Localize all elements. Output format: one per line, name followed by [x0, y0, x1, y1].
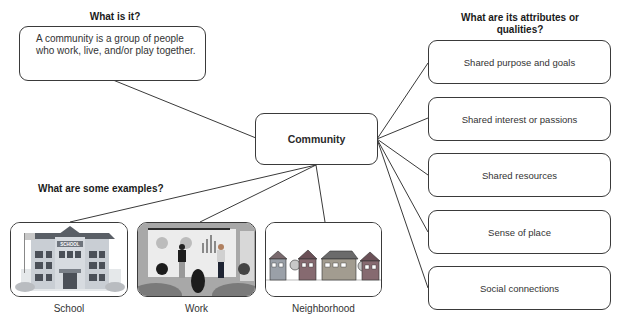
example-label-work: Work: [137, 303, 256, 314]
definition-heading: What is it?: [60, 11, 170, 23]
example-label-neighborhood: Neighborhood: [265, 303, 382, 314]
definition-text: A community is a group of people who wor…: [36, 33, 196, 57]
attribute-label: Shared interest or passions: [462, 114, 578, 125]
neighborhood-image: [265, 222, 382, 297]
school-sign: SCHOOL: [60, 242, 80, 247]
attributes-heading: What are its attributes or qualities?: [445, 12, 595, 36]
school-building-icon: SCHOOL: [11, 223, 128, 297]
office-presentation-icon: [138, 223, 256, 297]
attribute-box: Shared purpose and goals: [428, 40, 611, 84]
definition-box: A community is a group of people who wor…: [19, 26, 206, 81]
example-label-school: School: [10, 303, 128, 314]
attribute-label: Shared purpose and goals: [464, 57, 575, 68]
attribute-label: Shared resources: [482, 170, 557, 181]
attribute-label: Sense of place: [488, 227, 551, 238]
attribute-label: Social connections: [480, 283, 559, 294]
work-image: [137, 222, 256, 297]
attribute-box: Social connections: [428, 266, 611, 310]
attribute-box: Shared resources: [428, 153, 611, 197]
row-of-houses-icon: [266, 223, 382, 297]
center-label: Community: [288, 133, 346, 145]
attribute-box: Sense of place: [428, 210, 611, 254]
examples-heading: What are some examples?: [38, 183, 168, 195]
school-image: SCHOOL: [10, 222, 128, 297]
community-center-node: Community: [255, 113, 378, 165]
attribute-box: Shared interest or passions: [428, 97, 611, 141]
